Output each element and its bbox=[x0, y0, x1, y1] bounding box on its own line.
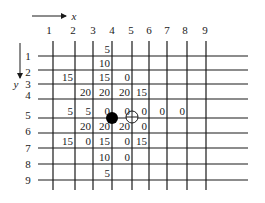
cell-value: 5 bbox=[86, 106, 94, 118]
cell-value: 20 bbox=[80, 121, 93, 133]
cell-value: 15 bbox=[136, 136, 149, 148]
cell-value: 20 bbox=[99, 121, 112, 133]
cell-value: 10 bbox=[99, 152, 112, 164]
cell-value: 20 bbox=[80, 87, 93, 99]
cell-value: 20 bbox=[119, 121, 132, 133]
column-label: 8 bbox=[182, 25, 188, 36]
cell-value: 15 bbox=[62, 72, 75, 84]
cell-value: 15 bbox=[99, 72, 112, 84]
cell-value: 15 bbox=[62, 136, 75, 148]
cell-value: 0 bbox=[142, 121, 150, 133]
row-label: 9 bbox=[25, 175, 31, 186]
column-label: 5 bbox=[128, 25, 134, 36]
cell-value: 20 bbox=[119, 87, 132, 99]
row-label: 8 bbox=[25, 159, 31, 170]
grid-diagram: x y 123456789123456789 51015150202020155… bbox=[0, 0, 265, 203]
cell-value: 5 bbox=[105, 168, 113, 180]
cell-value: 0 bbox=[125, 106, 133, 118]
column-label: 6 bbox=[146, 25, 152, 36]
column-label: 7 bbox=[164, 25, 170, 36]
row-label: 6 bbox=[25, 126, 31, 137]
column-label: 1 bbox=[46, 25, 52, 36]
cell-value: 15 bbox=[99, 136, 112, 148]
column-label: 4 bbox=[109, 25, 115, 36]
row-label: 2 bbox=[25, 67, 31, 78]
cell-value: 5 bbox=[105, 44, 113, 56]
row-label: 1 bbox=[25, 51, 31, 62]
cell-value: 15 bbox=[136, 87, 149, 99]
cell-value: 0 bbox=[86, 136, 94, 148]
cell-value: 0 bbox=[160, 106, 168, 118]
cell-value: 20 bbox=[99, 87, 112, 99]
row-label: 5 bbox=[25, 110, 31, 121]
cell-value: 0 bbox=[105, 106, 113, 118]
column-label: 9 bbox=[202, 25, 208, 36]
row-label: 4 bbox=[25, 90, 31, 101]
column-label: 3 bbox=[90, 25, 96, 36]
cell-value: 0 bbox=[125, 72, 133, 84]
column-label: 2 bbox=[70, 25, 76, 36]
cell-value: 0 bbox=[125, 152, 133, 164]
cell-value: 0 bbox=[142, 106, 150, 118]
x-axis-label: x bbox=[72, 11, 77, 22]
row-label: 7 bbox=[25, 143, 31, 154]
y-axis-label: y bbox=[14, 79, 19, 90]
cell-value: 5 bbox=[68, 106, 76, 118]
cell-value: 10 bbox=[99, 58, 112, 70]
cell-value: 0 bbox=[180, 106, 188, 118]
cell-value: 0 bbox=[125, 136, 133, 148]
